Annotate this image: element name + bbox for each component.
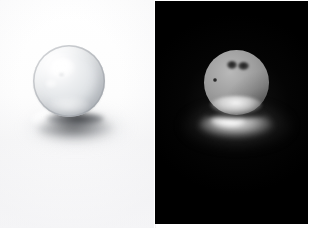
bright-background-panel xyxy=(0,0,156,228)
comparison-figure xyxy=(0,0,313,234)
glass-marble-right xyxy=(204,50,269,115)
marble-right-rim xyxy=(204,50,269,115)
marble-left-rim xyxy=(33,45,105,117)
glass-marble-left xyxy=(33,45,105,117)
panel-divider xyxy=(154,0,155,234)
dark-background-panel xyxy=(155,1,308,224)
